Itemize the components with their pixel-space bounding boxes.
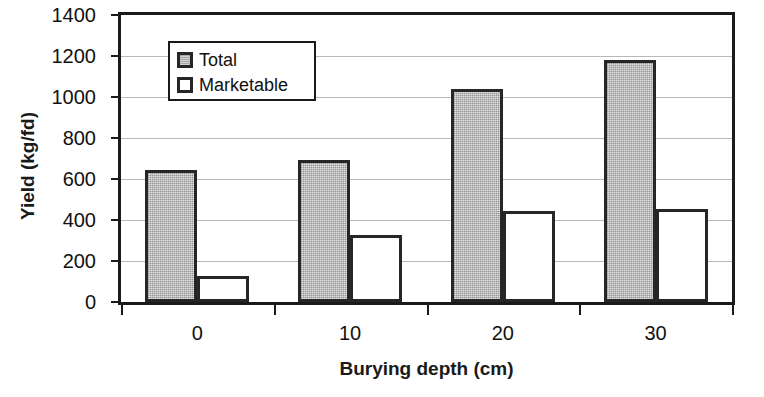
bar-chart: Yield (kg/fd) 0200400600800100012001400 … <box>0 0 764 397</box>
legend-item-marketable: Marketable <box>177 72 314 97</box>
plot-area: Total Marketable <box>118 12 735 305</box>
bar-marketable-10 <box>350 235 402 302</box>
legend-swatch-total-icon <box>177 52 193 68</box>
y-axis-tick-label: 1000 <box>34 87 96 107</box>
x-axis-tick-label: 20 <box>463 322 543 345</box>
x-axis-tick-mark <box>579 305 581 315</box>
y-axis-tick-label: 1200 <box>34 46 96 66</box>
bar-marketable-0 <box>197 276 249 302</box>
x-axis-tick-mark <box>732 305 734 315</box>
y-axis-tick-label: 600 <box>34 169 96 189</box>
y-axis-tick-label: 200 <box>34 251 96 271</box>
bar-total-0 <box>145 170 197 302</box>
bar-marketable-30 <box>656 209 708 302</box>
bar-total-30 <box>604 60 656 302</box>
x-axis-tick-mark <box>121 305 123 315</box>
x-axis-tick-label: 10 <box>310 322 390 345</box>
y-axis-tick-labels: 0200400600800100012001400 <box>30 0 96 397</box>
x-axis-title: Burying depth (cm) <box>118 358 735 380</box>
x-axis-tick-mark <box>427 305 429 315</box>
bar-total-10 <box>298 160 350 302</box>
y-axis-tick-label: 1400 <box>34 5 96 25</box>
y-axis-tick-label: 0 <box>34 292 96 312</box>
legend-label-marketable: Marketable <box>199 76 288 94</box>
x-axis-tick-mark <box>274 305 276 315</box>
bar-marketable-20 <box>503 211 555 302</box>
x-axis-tick-label: 30 <box>616 322 696 345</box>
legend-item-total: Total <box>177 47 314 72</box>
legend-label-total: Total <box>199 51 237 69</box>
bar-total-20 <box>451 89 503 302</box>
y-axis-tick-label: 800 <box>34 128 96 148</box>
y-axis-tick-label: 400 <box>34 210 96 230</box>
x-axis-tick-label: 0 <box>157 322 237 345</box>
legend-swatch-marketable-icon <box>177 77 193 93</box>
legend: Total Marketable <box>168 41 316 101</box>
